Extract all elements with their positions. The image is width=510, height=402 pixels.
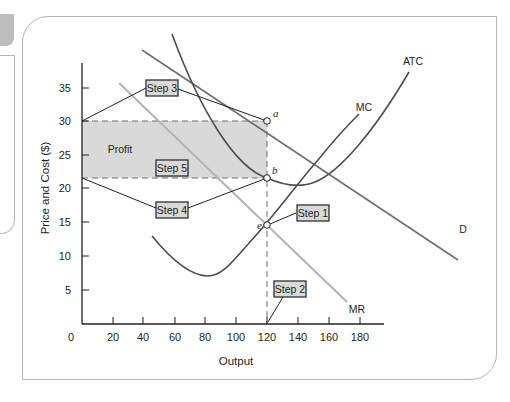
step-1-box: Step 1	[297, 205, 329, 221]
x-tick-160: 160	[320, 331, 338, 343]
point-b	[264, 175, 271, 182]
x-tick-140: 140	[289, 331, 307, 343]
step-4-box: Step 4	[156, 202, 188, 218]
x-tick-80: 80	[199, 331, 211, 343]
y-axis-title: Price and Cost ($)	[39, 141, 51, 234]
x-ticks	[113, 317, 360, 324]
y-tick-20: 20	[59, 182, 71, 194]
x-tick-0: 0	[68, 331, 74, 343]
atc-label: ATC	[403, 55, 424, 67]
step-5-text: Step 5	[157, 162, 188, 174]
y-tick-10: 10	[59, 250, 71, 262]
step-2-box: Step 2	[274, 281, 306, 297]
point-e	[264, 222, 271, 229]
x-tick-180: 180	[351, 331, 369, 343]
profit-maximization-chart: 35 30 25 20 15 10 5 0 20 40 60 80 100 12…	[0, 0, 510, 402]
demand-label: D	[459, 223, 467, 235]
step-1-text: Step 1	[298, 207, 329, 219]
y-tick-25: 25	[59, 149, 71, 161]
x-tick-40: 40	[137, 331, 149, 343]
x-tick-20: 20	[107, 331, 119, 343]
mc-label: MC	[356, 101, 373, 113]
x-tick-100: 100	[227, 331, 245, 343]
x-tick-60: 60	[169, 331, 181, 343]
mr-label: MR	[349, 303, 366, 315]
point-a-label: a	[273, 107, 279, 119]
step-3-box: Step 3	[146, 80, 178, 96]
y-tick-15: 15	[59, 216, 71, 228]
point-e-label: e	[257, 219, 262, 231]
y-tick-30: 30	[59, 115, 71, 127]
y-tick-5: 5	[65, 284, 71, 296]
point-a	[264, 118, 271, 125]
profit-label: Profit	[108, 143, 133, 155]
step-4-text: Step 4	[157, 204, 188, 216]
step-5-box: Step 5	[156, 160, 188, 176]
mr-curve	[119, 83, 347, 302]
step-2-text: Step 2	[275, 283, 306, 295]
y-tick-35: 35	[59, 82, 71, 94]
step-3-text: Step 3	[147, 82, 178, 94]
x-tick-120: 120	[258, 331, 276, 343]
x-axis-title: Output	[219, 355, 254, 367]
point-b-label: b	[272, 164, 278, 176]
